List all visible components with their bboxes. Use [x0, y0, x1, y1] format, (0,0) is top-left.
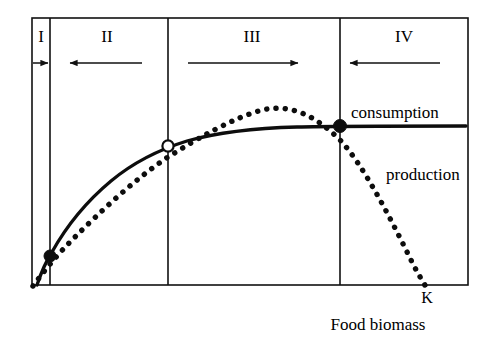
region-label-IV: IV: [395, 27, 414, 46]
equilibrium-points: [44, 120, 347, 263]
equilibrium-point-upper-filled: [334, 120, 347, 133]
region-labels: I II III IV: [38, 27, 414, 46]
curve-labels: consumption production: [351, 103, 460, 184]
consumption-curve: [37, 126, 466, 285]
consumption-curve-path: [37, 126, 466, 285]
region-label-I: I: [38, 27, 44, 46]
region-dividers: [50, 18, 340, 285]
axis-annotations: K Food biomass: [331, 289, 434, 334]
production-consumption-diagram: I II III IV consumption pro: [0, 0, 487, 340]
equilibrium-point-unstable-hollow: [162, 140, 173, 151]
carrying-capacity-tick-label: K: [421, 289, 433, 306]
figure-container: I II III IV consumption pro: [0, 0, 487, 340]
production-label: production: [386, 165, 460, 184]
region-label-III: III: [244, 27, 261, 46]
x-axis-label: Food biomass: [331, 315, 426, 334]
region-label-II: II: [101, 27, 113, 46]
consumption-label: consumption: [351, 103, 439, 122]
equilibrium-point-lower-filled: [44, 250, 56, 262]
